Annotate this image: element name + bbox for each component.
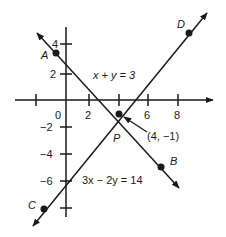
x-tick-label-2: 2: [85, 109, 91, 121]
equation-label-1: x + y = 3: [92, 69, 136, 81]
x-tick-label-6: 6: [144, 109, 150, 121]
coordinate-plane: 0 2 6 8 4 2 −2 −4 −6 A B C D P (4, −1) x…: [0, 0, 226, 237]
x-tick-label-0: 0: [55, 109, 61, 121]
x-tick-label-8: 8: [174, 109, 180, 121]
point-d: [186, 30, 193, 37]
y-tick-label-neg6: −6: [40, 175, 53, 187]
intersection-label: (4, −1): [147, 130, 179, 142]
y-tick-label-neg2: −2: [40, 121, 53, 133]
x-axis: [15, 94, 213, 106]
equation-label-2: 3x − 2y = 14: [82, 174, 143, 186]
y-tick-label-neg4: −4: [40, 148, 53, 160]
label-a: A: [40, 49, 48, 61]
label-p: P: [113, 132, 121, 144]
y-tick-label-2: 2: [50, 68, 56, 80]
y-axis: [60, 27, 72, 217]
y-tick-label-4: 4: [52, 38, 58, 50]
label-d: D: [177, 18, 185, 30]
label-b: B: [170, 155, 177, 167]
point-b: [158, 164, 165, 171]
point-c: [41, 206, 48, 213]
point-a: [53, 50, 60, 57]
label-c: C: [28, 199, 36, 211]
point-p: [116, 111, 123, 118]
